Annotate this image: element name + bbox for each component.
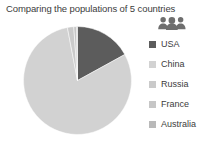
legend: USAChinaRussiaFranceAustralia — [149, 16, 221, 134]
legend-label: China — [161, 59, 185, 69]
legend-label: Australia — [161, 119, 196, 129]
legend-swatch-russia — [149, 81, 156, 88]
legend-item-france[interactable]: France — [149, 94, 221, 114]
pie-chart-figure: Comparing the populations of 5 countries… — [0, 0, 221, 143]
legend-swatch-usa — [149, 41, 156, 48]
legend-swatch-france — [149, 101, 156, 108]
legend-item-australia[interactable]: Australia — [149, 114, 221, 134]
legend-label: Russia — [161, 79, 189, 89]
people-group-icon — [157, 16, 187, 30]
page-title: Comparing the populations of 5 countries — [6, 3, 216, 15]
legend-list: USAChinaRussiaFranceAustralia — [149, 34, 221, 134]
legend-item-russia[interactable]: Russia — [149, 74, 221, 94]
legend-item-china[interactable]: China — [149, 54, 221, 74]
pie-plot-area — [22, 25, 133, 136]
legend-swatch-australia — [149, 121, 156, 128]
legend-item-usa[interactable]: USA — [149, 34, 221, 54]
legend-label: USA — [161, 39, 180, 49]
legend-label: France — [161, 99, 189, 109]
pie-svg — [22, 25, 133, 136]
legend-swatch-china — [149, 61, 156, 68]
